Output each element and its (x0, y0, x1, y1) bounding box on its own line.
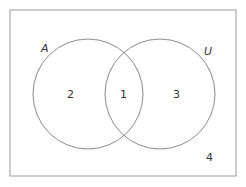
region-outside: 4 (206, 151, 213, 164)
set-a-label: A (40, 42, 49, 55)
region-right-only: 3 (173, 88, 180, 101)
region-intersection: 1 (120, 88, 127, 101)
venn-diagram: A U 2 1 3 4 (0, 0, 246, 187)
universe-label: U (204, 45, 212, 58)
region-left-only: 2 (67, 88, 74, 101)
